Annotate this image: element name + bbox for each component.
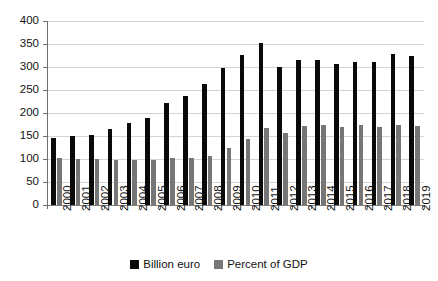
legend-swatch-icon (130, 260, 139, 269)
bar (409, 56, 414, 206)
bar-group (277, 21, 287, 205)
bar-group (145, 21, 155, 205)
y-axis-label: 300 (0, 61, 39, 73)
bar-group (391, 21, 401, 205)
y-axis-label: 200 (0, 107, 39, 119)
bar-group (259, 21, 269, 205)
bar-group (315, 21, 325, 205)
bar (51, 138, 56, 205)
x-axis-label: 2008 (212, 185, 224, 211)
bar-group (353, 21, 363, 205)
bar (277, 67, 282, 205)
y-axis-label: 250 (0, 84, 39, 96)
x-axis-label: 2017 (382, 185, 394, 211)
bar-chart: 050100150200250300350400 200020012002200… (0, 0, 438, 281)
y-tick (43, 90, 48, 91)
bar-group (70, 21, 80, 205)
y-tick (43, 44, 48, 45)
x-axis-label: 2011 (269, 186, 281, 211)
bars-layer (47, 21, 424, 205)
bar (353, 62, 358, 205)
bar (240, 55, 245, 205)
y-axis-label: 400 (0, 15, 39, 27)
bar-group (164, 21, 174, 205)
y-axis-label: 100 (0, 153, 39, 165)
y-axis-label: 350 (0, 38, 39, 50)
x-axis-label: 2000 (61, 185, 73, 211)
x-axis-label: 2005 (156, 185, 168, 211)
bar-group (127, 21, 137, 205)
y-tick (43, 67, 48, 68)
bar-group (240, 21, 250, 205)
bar (334, 64, 339, 205)
x-axis-label: 2012 (288, 185, 300, 211)
x-axis-label: 2006 (175, 185, 187, 211)
bar (259, 43, 264, 205)
x-axis-label: 2015 (344, 185, 356, 211)
y-tick (43, 21, 48, 22)
y-tick (43, 136, 48, 137)
x-tick (47, 205, 48, 209)
y-tick (43, 182, 48, 183)
bar (296, 60, 301, 205)
x-axis-label: 2003 (118, 185, 130, 211)
bar-group (89, 21, 99, 205)
bar (372, 62, 377, 205)
bar-group (372, 21, 382, 205)
x-axis-label: 2013 (306, 185, 318, 211)
legend-label: Percent of GDP (227, 258, 308, 270)
x-axis-label: 2001 (80, 185, 92, 211)
x-axis-label: 2002 (99, 185, 111, 211)
y-axis-label: 50 (0, 176, 39, 188)
y-tick (43, 159, 48, 160)
legend-item: Percent of GDP (214, 258, 308, 270)
x-axis-label: 2010 (250, 185, 262, 211)
plot-area (47, 21, 424, 205)
y-axis-label: 150 (0, 130, 39, 142)
x-axis-label: 2004 (137, 185, 149, 211)
bar-group (183, 21, 193, 205)
legend-swatch-icon (214, 260, 223, 269)
bar (315, 60, 320, 205)
x-axis-label: 2007 (193, 185, 205, 211)
y-tick (43, 113, 48, 114)
x-axis-label: 2014 (325, 185, 337, 211)
x-axis-label: 2018 (401, 185, 413, 211)
bar-group (409, 21, 419, 205)
bar-group (108, 21, 118, 205)
bar (391, 54, 396, 205)
legend-item: Billion euro (130, 258, 200, 270)
x-axis-label: 2009 (231, 185, 243, 211)
bar-group (296, 21, 306, 205)
legend-label: Billion euro (143, 258, 200, 270)
bar-group (51, 21, 61, 205)
bar (170, 158, 175, 205)
x-axis-label: 2016 (363, 185, 375, 211)
y-axis-label: 0 (0, 199, 39, 211)
bar-group (221, 21, 231, 205)
chart-legend: Billion euroPercent of GDP (0, 258, 438, 270)
x-axis-label: 2019 (420, 185, 432, 211)
bar-group (334, 21, 344, 205)
bar-group (202, 21, 212, 205)
